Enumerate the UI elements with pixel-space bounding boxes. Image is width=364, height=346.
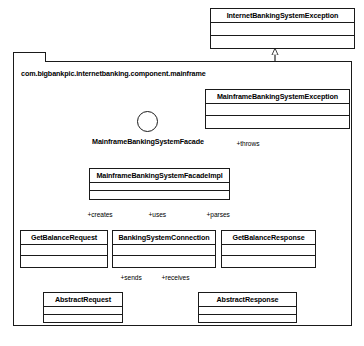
package-label: com.bigbankpic.internetbanking.component… [21, 69, 206, 78]
class-attributes-compartment [211, 23, 354, 36]
class-name: MainframeBankingSystemException [206, 90, 349, 104]
class-get-balance-response[interactable]: GetBalanceResponse [221, 230, 316, 268]
class-abstract-response[interactable]: AbstractResponse [198, 292, 297, 323]
interface-label: MainframeBankingSystemFacade [89, 137, 207, 146]
class-operations-compartment [21, 256, 107, 267]
class-attributes-compartment [44, 307, 122, 315]
class-internet-banking-system-exception[interactable]: InternetBankingSystemException [210, 8, 355, 49]
class-attributes-compartment [222, 245, 315, 257]
class-attributes-compartment [206, 104, 349, 117]
class-get-balance-request[interactable]: GetBalanceRequest [20, 230, 108, 268]
edge-label-throws: +throws [236, 140, 260, 147]
class-operations-compartment [113, 256, 215, 267]
class-name: MainframeBankingSystemFacadeImpl [90, 169, 229, 183]
class-name: AbstractResponse [199, 293, 296, 307]
class-attributes-compartment [199, 307, 296, 315]
edge-label-receives: +receives [161, 274, 190, 281]
edge-label-parses: +parses [206, 211, 230, 218]
class-mainframe-banking-system-facade-impl[interactable]: MainframeBankingSystemFacadeImpl [89, 168, 230, 200]
class-attributes-compartment [113, 245, 215, 257]
lollipop-interface-icon [137, 111, 158, 132]
class-name: InternetBankingSystemException [211, 9, 354, 23]
class-name: GetBalanceResponse [222, 231, 315, 245]
class-mainframe-banking-system-exception[interactable]: MainframeBankingSystemException [205, 89, 350, 129]
class-operations-compartment [222, 256, 315, 267]
class-banking-system-connection[interactable]: BankingSystemConnection [112, 230, 216, 268]
class-name: BankingSystemConnection [113, 231, 215, 245]
edge-label-uses: +uses [148, 211, 167, 218]
edge-label-sends: +sends [120, 274, 142, 281]
class-attributes-compartment [21, 245, 107, 257]
package-tab [13, 52, 46, 62]
class-attributes-compartment [90, 183, 229, 191]
uml-class-diagram: com.bigbankpic.internetbanking.component… [0, 0, 364, 346]
edge-label-creates: +creates [87, 211, 113, 218]
class-operations-compartment [44, 315, 122, 323]
class-abstract-request[interactable]: AbstractRequest [43, 292, 123, 323]
class-operations-compartment [206, 116, 349, 128]
class-operations-compartment [211, 36, 354, 48]
class-name: GetBalanceRequest [21, 231, 107, 245]
class-name: AbstractRequest [44, 293, 122, 307]
class-operations-compartment [199, 315, 296, 323]
class-operations-compartment [90, 191, 229, 199]
